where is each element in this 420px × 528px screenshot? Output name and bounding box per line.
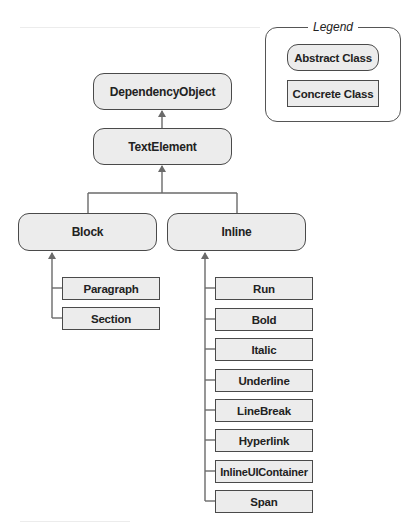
class-hierarchy-diagram: Legend Abstract Class Concrete Class Dep… [0, 0, 420, 528]
node-dependency-object: DependencyObject [93, 73, 232, 110]
legend-title: Legend [308, 20, 358, 34]
node-hyperlink: Hyperlink [215, 429, 313, 452]
node-underline: Underline [215, 369, 313, 392]
node-block: Block [18, 213, 157, 251]
node-paragraph: Paragraph [62, 277, 160, 300]
node-italic: Italic [215, 338, 313, 361]
node-inline-ui-container: InlineUIContainer [215, 460, 313, 483]
node-text-element: TextElement [93, 128, 232, 165]
node-bold: Bold [215, 308, 313, 331]
node-span: Span [215, 490, 313, 513]
node-section: Section [62, 307, 160, 330]
node-linebreak: LineBreak [215, 399, 313, 422]
node-inline: Inline [167, 213, 306, 251]
legend-box [265, 27, 401, 122]
legend-abstract-class: Abstract Class [287, 44, 379, 71]
node-run: Run [215, 277, 313, 300]
legend-concrete-class: Concrete Class [287, 80, 379, 107]
